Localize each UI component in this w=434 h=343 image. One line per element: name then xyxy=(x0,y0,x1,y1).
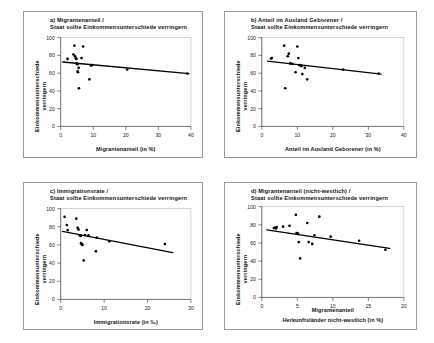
data-point xyxy=(297,241,300,244)
svg-text:40: 40 xyxy=(401,132,407,138)
data-point xyxy=(287,52,290,55)
svg-text:100: 100 xyxy=(247,204,256,210)
svg-text:100: 100 xyxy=(247,35,256,41)
data-point xyxy=(77,71,80,74)
panel-d-x-axis-label-line1: Migrantenanteil xyxy=(312,307,355,313)
data-point xyxy=(75,58,78,61)
svg-text:10: 10 xyxy=(294,132,300,138)
panel-d-plot: 0 20 40 60 80 100 0 5 10 15 20 Mig xyxy=(225,183,416,329)
panel-b-trendline xyxy=(267,61,381,74)
panel-b-y-ticks: 0 20 40 60 80 100 xyxy=(247,35,261,130)
svg-text:30: 30 xyxy=(188,305,194,311)
panel-d-points xyxy=(273,214,387,260)
panel-a-x-axis-label: Migrantenanteil (in %) xyxy=(96,146,156,152)
svg-text:60: 60 xyxy=(250,70,256,76)
data-point xyxy=(164,243,167,246)
data-point xyxy=(78,87,81,90)
panel-c-x-axis-label: Immigrationsrate (in ‰) xyxy=(94,319,158,325)
panel-a-x-ticks: 0 10 20 30 40 xyxy=(59,126,194,138)
svg-text:0: 0 xyxy=(52,296,55,302)
svg-text:20: 20 xyxy=(123,132,129,138)
data-point xyxy=(384,248,387,251)
data-point xyxy=(82,45,85,48)
data-point xyxy=(85,229,88,232)
panel-d-trendline xyxy=(267,230,390,249)
data-point xyxy=(65,224,68,227)
data-point xyxy=(294,71,297,74)
data-point xyxy=(311,243,314,246)
panel-c-y-ticks: 0 20 40 60 80 100 xyxy=(46,206,60,303)
data-point xyxy=(66,229,69,232)
panel-a-y-ticks: 0 20 40 60 80 100 xyxy=(46,35,60,130)
svg-text:40: 40 xyxy=(250,88,256,94)
panel-c-points xyxy=(63,215,166,261)
panel-d-y-ticks: 0 20 40 60 80 100 xyxy=(247,204,261,301)
data-point xyxy=(95,250,98,253)
data-point xyxy=(77,228,80,231)
data-point xyxy=(275,226,278,229)
data-point xyxy=(270,57,273,60)
data-point xyxy=(306,78,309,81)
panel-d-x-axis-label-line2: Herkunftsländer nicht-westlich (in %) xyxy=(282,317,383,323)
svg-text:40: 40 xyxy=(49,88,55,94)
data-point xyxy=(288,224,291,227)
svg-text:20: 20 xyxy=(49,278,55,284)
data-point xyxy=(63,215,66,218)
panel-b-points xyxy=(270,44,380,89)
svg-text:0: 0 xyxy=(253,294,256,300)
svg-text:100: 100 xyxy=(46,35,55,41)
svg-text:0: 0 xyxy=(52,123,55,129)
panel-b: b) Anteil im Ausland Geborener / Staat s… xyxy=(224,11,417,158)
data-point xyxy=(283,44,286,47)
data-point xyxy=(301,73,304,76)
panel-a-trendline xyxy=(63,62,189,74)
svg-text:80: 80 xyxy=(49,52,55,58)
panel-d: d) Migrantenanteil (nicht-westlich) / St… xyxy=(224,182,417,330)
panel-b-x-axis-label: Anteil im Ausland Geborener (in %) xyxy=(285,146,381,152)
svg-text:60: 60 xyxy=(250,240,256,246)
data-point xyxy=(358,239,361,242)
svg-text:40: 40 xyxy=(49,260,55,266)
svg-text:0: 0 xyxy=(59,305,62,311)
data-point xyxy=(286,55,289,58)
svg-text:15: 15 xyxy=(366,303,372,309)
panel-c-x-ticks: 0 10 20 30 xyxy=(59,299,194,311)
svg-text:10: 10 xyxy=(90,132,96,138)
svg-text:20: 20 xyxy=(401,303,407,309)
svg-text:40: 40 xyxy=(250,258,256,264)
data-point xyxy=(75,217,78,220)
data-point xyxy=(284,87,287,90)
svg-text:20: 20 xyxy=(330,132,336,138)
data-point xyxy=(306,222,309,225)
svg-text:80: 80 xyxy=(49,224,55,230)
data-point xyxy=(307,241,310,244)
data-point xyxy=(329,235,332,238)
panel-c: c) Immigrationsrate / Staat sollte Einko… xyxy=(23,182,203,330)
svg-text:30: 30 xyxy=(156,132,162,138)
svg-text:10: 10 xyxy=(101,305,107,311)
data-point xyxy=(299,257,302,260)
data-point xyxy=(66,58,69,61)
data-point xyxy=(82,259,85,262)
svg-text:30: 30 xyxy=(365,132,371,138)
data-point xyxy=(295,214,298,217)
panel-a: a) Migrantenanteil / Staat sollte Einkom… xyxy=(23,11,203,158)
data-point xyxy=(318,215,321,218)
svg-text:0: 0 xyxy=(260,303,263,309)
data-point xyxy=(297,57,300,60)
data-point xyxy=(80,57,83,60)
data-point xyxy=(73,44,76,47)
data-point xyxy=(282,225,285,228)
svg-text:60: 60 xyxy=(49,242,55,248)
data-point xyxy=(88,78,91,81)
svg-text:40: 40 xyxy=(188,132,194,138)
svg-text:0: 0 xyxy=(59,132,62,138)
panel-a-plot: 0 20 40 60 80 100 0 10 20 30 40 Mi xyxy=(24,12,202,157)
data-point xyxy=(296,45,299,48)
data-point xyxy=(81,244,84,247)
svg-text:80: 80 xyxy=(250,222,256,228)
svg-text:80: 80 xyxy=(250,52,256,58)
panel-b-x-ticks: 0 10 20 30 40 xyxy=(260,126,406,138)
svg-text:20: 20 xyxy=(250,276,256,282)
svg-text:100: 100 xyxy=(46,206,55,212)
